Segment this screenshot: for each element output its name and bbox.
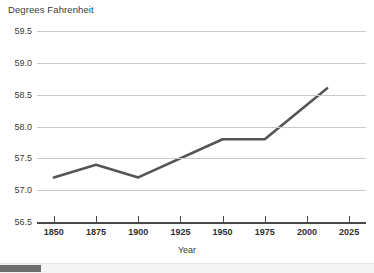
gridline xyxy=(37,31,366,32)
y-axis-tick-label: 58.0 xyxy=(14,122,32,132)
y-axis-tick-label: 57.5 xyxy=(14,153,32,163)
x-axis-tick-label: 1950 xyxy=(213,227,233,237)
chart-title: Degrees Fahrenheit xyxy=(8,4,94,15)
chart-container: Degrees Fahrenheit 59.559.058.558.057.55… xyxy=(0,0,374,273)
x-axis-line xyxy=(37,222,366,224)
x-axis-tick-mark xyxy=(223,216,224,222)
x-axis-tick-mark xyxy=(96,216,97,222)
gridline xyxy=(37,190,366,191)
x-axis-tick-mark xyxy=(307,216,308,222)
x-axis-tick-mark xyxy=(138,216,139,222)
y-axis-tick-label: 57.0 xyxy=(14,185,32,195)
plot-area xyxy=(37,31,366,222)
horizontal-scrollbar[interactable] xyxy=(0,263,374,273)
scrollbar-thumb[interactable] xyxy=(0,265,41,272)
y-axis-labels: 59.559.058.558.057.557.056.5 xyxy=(0,31,32,222)
y-axis-tick-label: 59.0 xyxy=(14,58,32,68)
x-axis-tick-mark xyxy=(180,216,181,222)
y-axis-tick-label: 59.5 xyxy=(14,26,32,36)
x-axis-tick-label: 1875 xyxy=(86,227,106,237)
x-axis-tick-label: 1975 xyxy=(255,227,275,237)
x-axis-title: Year xyxy=(0,245,374,255)
y-axis-tick-label: 58.5 xyxy=(14,90,32,100)
x-axis-tick-mark xyxy=(349,216,350,222)
gridline xyxy=(37,95,366,96)
x-axis-tick-label: 1850 xyxy=(44,227,64,237)
gridline xyxy=(37,158,366,159)
x-axis-tick-label: 1900 xyxy=(128,227,148,237)
gridline xyxy=(37,63,366,64)
gridline xyxy=(37,127,366,128)
x-axis-tick-mark xyxy=(265,216,266,222)
x-axis-tick-mark xyxy=(54,216,55,222)
y-axis-tick-label: 56.5 xyxy=(14,217,32,227)
x-axis-tick-label: 2025 xyxy=(339,227,359,237)
x-axis-tick-label: 2000 xyxy=(297,227,317,237)
x-axis-tick-label: 1925 xyxy=(170,227,190,237)
